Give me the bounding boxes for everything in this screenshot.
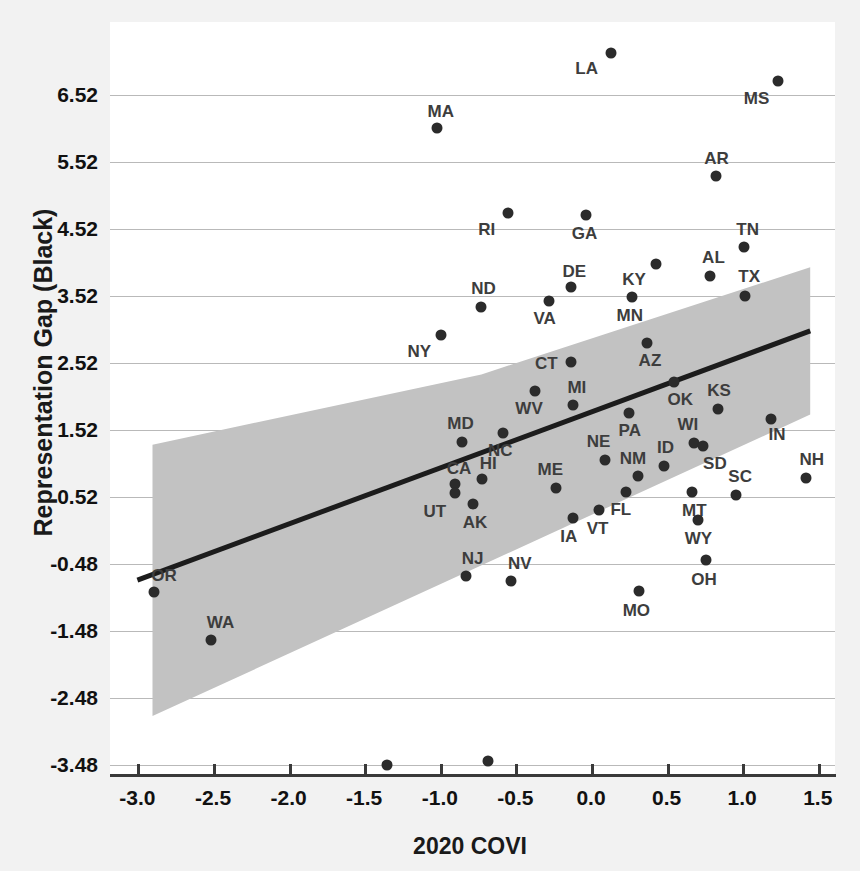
data-point[interactable] — [543, 296, 554, 307]
data-point[interactable] — [460, 571, 471, 582]
x-tick-label: -2.0 — [271, 786, 307, 810]
data-point[interactable] — [669, 376, 680, 387]
y-tick-label: 6.52 — [57, 83, 98, 107]
data-point-label: AZ — [639, 351, 662, 371]
x-tick-label: -2.5 — [195, 786, 231, 810]
x-axis-title: 2020 COVI — [110, 833, 830, 860]
data-point-label: CA — [447, 459, 472, 479]
x-tick-mark — [742, 764, 745, 775]
data-point[interactable] — [567, 513, 578, 524]
data-point-label: CT — [535, 354, 558, 374]
data-point-label: GA — [572, 224, 598, 244]
data-point[interactable] — [658, 461, 669, 472]
y-tick-label: 3.52 — [57, 284, 98, 308]
data-point[interactable] — [551, 482, 562, 493]
x-tick-label: -0.5 — [497, 786, 533, 810]
data-point-label: TX — [738, 267, 760, 287]
data-point[interactable] — [468, 498, 479, 509]
data-point[interactable] — [765, 413, 776, 424]
data-point-label: NH — [799, 450, 824, 470]
plot-area: LAMSMAARRIGATNKYALTXDENDVAMNNYAZCTOKWVMI… — [110, 22, 835, 774]
data-point-label: IA — [560, 527, 577, 547]
data-point-label: MS — [744, 89, 770, 109]
x-tick-label: -3.0 — [119, 786, 155, 810]
data-point[interactable] — [620, 486, 631, 497]
data-point[interactable] — [477, 473, 488, 484]
data-point[interactable] — [498, 428, 509, 439]
data-point[interactable] — [693, 515, 704, 526]
data-point[interactable] — [436, 329, 447, 340]
data-point[interactable] — [457, 437, 468, 448]
y-axis-tick-labels: 6.525.524.523.522.521.520.52-0.48-1.48-2… — [0, 0, 104, 871]
data-point[interactable] — [593, 504, 604, 515]
x-tick-mark — [515, 764, 518, 775]
data-point-label: IN — [768, 425, 785, 445]
data-point[interactable] — [149, 587, 160, 598]
data-point-label: KS — [707, 381, 731, 401]
data-point[interactable] — [566, 356, 577, 367]
data-point[interactable] — [634, 585, 645, 596]
data-point-label: MA — [428, 102, 454, 122]
y-tick-label: -3.48 — [50, 753, 98, 777]
data-point-label: NE — [587, 432, 611, 452]
data-point[interactable] — [581, 209, 592, 220]
data-point[interactable] — [502, 207, 513, 218]
data-point-label: MD — [447, 414, 473, 434]
data-point[interactable] — [483, 755, 494, 766]
x-tick-mark — [667, 764, 670, 775]
data-point-label: DE — [563, 262, 587, 282]
data-point[interactable] — [530, 386, 541, 397]
data-point[interactable] — [641, 337, 652, 348]
data-point[interactable] — [431, 122, 442, 133]
data-point[interactable] — [605, 47, 616, 58]
data-point-label: NJ — [462, 549, 484, 569]
data-point[interactable] — [651, 258, 662, 269]
data-point[interactable] — [599, 455, 610, 466]
data-point[interactable] — [700, 554, 711, 565]
y-tick-label: 2.52 — [57, 351, 98, 375]
data-point-label: MO — [623, 601, 650, 621]
data-point-label: WY — [685, 529, 712, 549]
data-point[interactable] — [713, 403, 724, 414]
data-point[interactable] — [738, 242, 749, 253]
data-point[interactable] — [711, 171, 722, 182]
data-point[interactable] — [206, 635, 217, 646]
data-point-label: FL — [610, 500, 631, 520]
data-point-label: RI — [478, 220, 495, 240]
data-point[interactable] — [623, 408, 634, 419]
data-point-label: OH — [691, 570, 717, 590]
data-point-label: ND — [471, 279, 496, 299]
data-point[interactable] — [705, 270, 716, 281]
x-tick-mark — [818, 764, 821, 775]
data-point[interactable] — [800, 473, 811, 484]
y-tick-label: -1.48 — [50, 619, 98, 643]
data-point[interactable] — [566, 282, 577, 293]
y-tick-label: 0.52 — [57, 485, 98, 509]
x-tick-mark — [213, 764, 216, 775]
data-point-label: HI — [480, 454, 497, 474]
data-point[interactable] — [505, 575, 516, 586]
data-point-label: AL — [702, 248, 725, 268]
data-point[interactable] — [740, 291, 751, 302]
data-point[interactable] — [773, 75, 784, 86]
x-tick-mark — [440, 764, 443, 775]
data-point[interactable] — [687, 486, 698, 497]
data-point[interactable] — [567, 399, 578, 410]
data-point[interactable] — [475, 302, 486, 313]
x-tick-mark — [137, 764, 140, 775]
data-point-label: AR — [704, 149, 729, 169]
data-point[interactable] — [626, 292, 637, 303]
x-tick-label: -1.0 — [422, 786, 458, 810]
data-point[interactable] — [731, 489, 742, 500]
x-tick-label: 1.5 — [803, 786, 832, 810]
data-point-label: NY — [407, 342, 431, 362]
data-point-label: MI — [567, 378, 586, 398]
data-point[interactable] — [632, 471, 643, 482]
data-point[interactable] — [449, 487, 460, 498]
x-tick-label: 0.0 — [576, 786, 605, 810]
data-point[interactable] — [381, 760, 392, 771]
data-point-label: SD — [703, 454, 727, 474]
data-point-label: TN — [736, 220, 759, 240]
data-point[interactable] — [697, 441, 708, 452]
data-point-label: KY — [622, 270, 646, 290]
